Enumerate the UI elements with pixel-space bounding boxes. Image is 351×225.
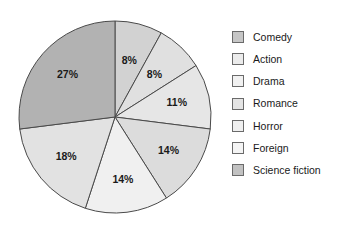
pie-slice-label: 14% <box>112 173 134 185</box>
legend-item-label: Drama <box>253 76 285 87</box>
legend-item-foreign: Foreign <box>232 137 350 159</box>
legend-item-label: Comedy <box>253 32 292 43</box>
legend-item-horror: Horror <box>232 115 350 137</box>
pie-chart-figure: 8%8%11%14%14%18%27% ComedyActionDramaRom… <box>0 0 351 225</box>
pie-slice-label: 18% <box>56 150 78 162</box>
legend-swatch-icon <box>232 120 244 132</box>
legend-swatch-icon <box>232 31 244 43</box>
legend-item-action: Action <box>232 48 350 70</box>
legend-swatch-icon <box>232 98 244 110</box>
pie-slice-label: 27% <box>57 68 79 80</box>
legend-swatch-icon <box>232 142 244 154</box>
legend-item-drama: Drama <box>232 70 350 92</box>
legend-item-label: Romance <box>253 98 298 109</box>
pie-slice-label: 11% <box>167 96 188 108</box>
pie-slice-label: 14% <box>158 144 180 156</box>
legend-item-label: Science fiction <box>253 165 321 176</box>
legend-item-label: Horror <box>253 121 283 132</box>
pie-slice-label: 8% <box>147 68 163 80</box>
legend-swatch-icon <box>232 53 244 65</box>
legend-swatch-icon <box>232 164 244 176</box>
legend-item-label: Action <box>253 54 282 65</box>
pie-slice-label: 8% <box>122 54 138 66</box>
legend-item-romance: Romance <box>232 93 350 115</box>
legend-item-label: Foreign <box>253 143 289 154</box>
legend-item-science-fiction: Science fiction <box>232 159 350 181</box>
chart-legend: ComedyActionDramaRomanceHorrorForeignSci… <box>232 26 350 181</box>
legend-item-comedy: Comedy <box>232 26 350 48</box>
legend-swatch-icon <box>232 75 244 87</box>
